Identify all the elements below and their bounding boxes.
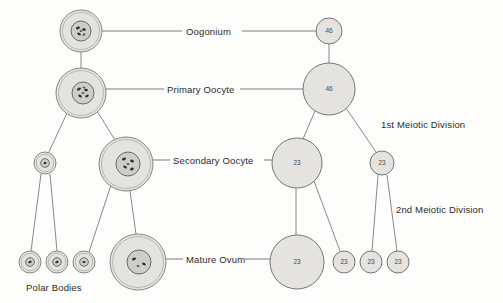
mature-ovum-nucleus [127, 250, 151, 274]
line-secondary-to-ovum [130, 191, 136, 234]
line-primary-to-polarbody1 [49, 113, 67, 152]
label-first-meiotic-division: 1st Meiotic Division [381, 119, 465, 130]
schematic-first-polar-body-23-label: 23 [378, 159, 386, 166]
schematic-polar-body-split-b-23[interactable]: 23 [387, 251, 409, 273]
label-polar-bodies: Polar Bodies [26, 282, 82, 293]
schematic-second-polar-body-23-label: 23 [340, 258, 348, 265]
schematic-first-polar-body-23[interactable]: 23 [370, 151, 394, 175]
label-primary-oocyte: Primary Oocyte [167, 84, 235, 95]
schematic-secondary-oocyte-23[interactable]: 23 [272, 138, 322, 188]
line-schem-primary-to-secondary [303, 111, 315, 139]
schematic-second-polar-body-23[interactable]: 23 [333, 251, 355, 273]
secondary-oocyte-cell[interactable] [99, 137, 153, 191]
schematic-polar-body-split-a-23-label: 23 [367, 258, 375, 265]
line-polarbody1-to-polarbody-b [50, 174, 57, 251]
schematic-mature-ovum-23[interactable]: 23 [270, 235, 324, 289]
mature-ovum-cell[interactable] [110, 234, 166, 290]
schematic-mature-ovum-23-label: 23 [293, 258, 301, 265]
line-schem-secondary-to-pb2 [314, 181, 340, 251]
schematic-primary-oocyte-46[interactable]: 46 [303, 63, 355, 115]
schematic-polar-body-split-b-23-label: 23 [394, 258, 402, 265]
schematic-primary-oocyte-46-label: 46 [325, 85, 333, 92]
line-polarbody1-to-polarbody-a [31, 174, 41, 251]
label-second-meiotic-division: 2nd Meiotic Division [396, 204, 483, 215]
diagram-canvas: 46 46 23 23 23 23 23 23 [0, 0, 503, 303]
line-secondary-to-polarbody-c [89, 185, 111, 252]
oogonium-cell[interactable] [60, 10, 102, 52]
schematic-oogonium-46[interactable]: 46 [316, 18, 342, 44]
oogenesis-diagram: 46 46 23 23 23 23 23 23 [0, 0, 503, 303]
line-schem-pb1-to-pba [372, 175, 378, 251]
line-primary-to-secondary [97, 111, 115, 140]
label-oogonium: Oogonium [186, 26, 231, 37]
line-schem-primary-to-pb1 [346, 108, 376, 152]
primary-oocyte-cell[interactable] [56, 68, 106, 118]
polar-body-first[interactable] [34, 152, 56, 174]
polar-body-a[interactable] [19, 251, 41, 273]
polar-body-c[interactable] [73, 251, 95, 273]
schematic-secondary-oocyte-23-label: 23 [293, 159, 301, 166]
polar-body-b[interactable] [46, 251, 68, 273]
schematic-oogonium-46-label: 46 [325, 27, 333, 34]
label-mature-ovum: Mature Ovum [186, 254, 245, 265]
label-secondary-oocyte: Secondary Oocyte [173, 155, 254, 166]
schematic-polar-body-split-a-23[interactable]: 23 [360, 251, 382, 273]
